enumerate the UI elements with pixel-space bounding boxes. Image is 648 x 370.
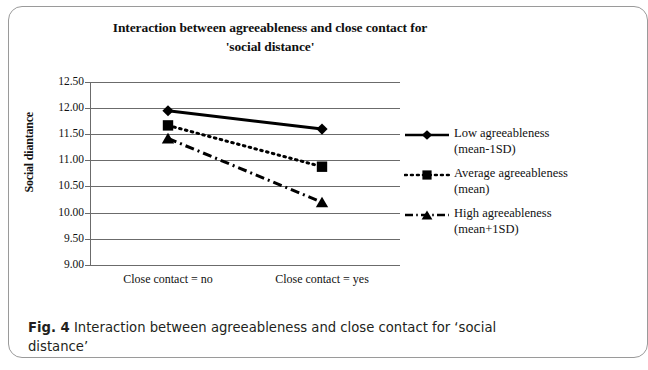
y-tick-label: 12.50 [38, 76, 84, 88]
chart-title-line2: 'social distance' [58, 37, 482, 56]
data-point-marker [316, 123, 327, 134]
y-tick-label: 12.00 [38, 102, 84, 114]
y-axis-tick-labels: 12.50 12.00 11.50 11.00 10.50 10.00 9.50… [36, 82, 84, 265]
legend-item-low-agreeableness: Low agreeableness (mean-1SD) [404, 126, 614, 157]
chart-legend: Low agreeableness (mean-1SD) Average agr… [404, 126, 614, 246]
y-tick-label: 11.00 [38, 154, 84, 166]
series-line [168, 111, 322, 129]
data-point-marker [162, 133, 174, 144]
legend-key-triangle-dashdot-icon [404, 208, 450, 222]
y-tick-label: 9.50 [38, 233, 84, 245]
y-tick-label: 10.00 [38, 207, 84, 219]
legend-label-main: Low agreeableness [454, 126, 549, 140]
series-line [168, 125, 322, 166]
data-point-marker [163, 120, 173, 130]
legend-label: Low agreeableness (mean-1SD) [454, 126, 614, 157]
data-point-marker [316, 197, 328, 208]
gridline [90, 265, 400, 266]
figure-caption-label: Fig. 4 [28, 320, 70, 335]
figure-caption: Fig. 4 Interaction between agreeableness… [28, 318, 528, 356]
legend-label: High agreeableness (mean+1SD) [454, 206, 614, 237]
legend-label-sub: (mean+1SD) [454, 222, 614, 238]
x-axis-tick-labels: Close contact = no Close contact = yes [90, 272, 400, 292]
data-point-marker [162, 105, 173, 116]
data-series-layer [90, 82, 400, 265]
legend-key-diamond-solid-icon [404, 128, 450, 142]
legend-label-sub: (mean-1SD) [454, 142, 614, 158]
y-tick-label: 9.00 [38, 259, 84, 271]
legend-item-average-agreeableness: Average agreeableness (mean) [404, 166, 614, 197]
legend-label-main: Average agreeableness [454, 166, 568, 180]
chart-title: Interaction between agreeableness and cl… [58, 18, 482, 56]
legend-item-high-agreeableness: High agreeableness (mean+1SD) [404, 206, 614, 237]
legend-label-sub: (mean) [454, 182, 614, 198]
y-tick [85, 265, 90, 266]
y-axis-title: Social diantance [22, 112, 37, 192]
chart-title-line1: Interaction between agreeableness and cl… [113, 20, 427, 35]
y-tick-label: 11.50 [38, 128, 84, 140]
legend-key-square-dotted-icon [404, 168, 450, 182]
legend-label: Average agreeableness (mean) [454, 166, 614, 197]
series-line [168, 138, 322, 202]
y-tick-label: 10.50 [38, 180, 84, 192]
x-tick-label: Close contact = yes [275, 272, 369, 287]
x-tick-label: Close contact = no [123, 272, 213, 287]
plot-area [90, 82, 400, 265]
legend-label-main: High agreeableness [454, 206, 552, 220]
figure-caption-text: Interaction between agreeableness and cl… [28, 320, 496, 354]
data-point-marker [317, 162, 327, 172]
